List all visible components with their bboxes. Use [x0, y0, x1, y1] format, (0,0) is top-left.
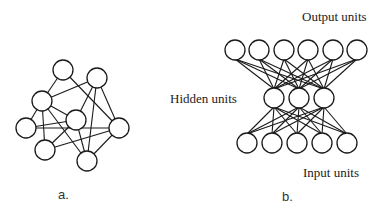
connection-line: [297, 107, 324, 134]
hidden-units-label: Hidden units: [170, 91, 237, 106]
output-units-label: Output units: [302, 9, 367, 24]
recurrent-network-diagram: a.: [16, 60, 129, 202]
input-units-label: Input units: [303, 165, 359, 180]
hidden-unit-node: [264, 88, 284, 108]
unit-node: [66, 110, 86, 130]
input-unit-node: [262, 133, 282, 153]
panel-a-caption: a.: [58, 187, 69, 202]
feedforward-network-diagram: Output units Hidden units Input units b.: [170, 9, 367, 204]
neural-network-figure: a. Output units Hidden units Input units…: [0, 0, 381, 211]
unit-node: [109, 118, 129, 138]
output-unit-node: [323, 40, 343, 60]
input-unit-node: [312, 133, 332, 153]
connection-line: [87, 78, 97, 161]
connection-line: [259, 59, 274, 89]
feedforward-units: [225, 40, 367, 153]
connection-line: [247, 107, 274, 134]
connection-line: [272, 107, 324, 134]
unit-node: [77, 151, 97, 171]
input-unit-node: [337, 133, 357, 153]
output-unit-node: [298, 40, 318, 60]
input-unit-node: [287, 133, 307, 153]
output-unit-node: [249, 40, 269, 60]
unit-node: [16, 118, 36, 138]
hidden-unit-node: [289, 88, 309, 108]
unit-node: [87, 68, 107, 88]
input-unit-node: [237, 133, 257, 153]
output-unit-node: [274, 40, 294, 60]
hidden-unit-node: [314, 88, 334, 108]
unit-node: [32, 91, 52, 111]
unit-node: [53, 60, 73, 80]
panel-b-caption: b.: [282, 189, 293, 204]
output-unit-node: [347, 40, 367, 60]
unit-node: [35, 140, 55, 160]
output-unit-node: [225, 40, 245, 60]
connection-line: [247, 107, 299, 134]
